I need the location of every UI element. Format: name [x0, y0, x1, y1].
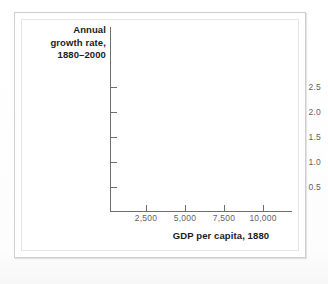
figure-frame-inner [21, 19, 299, 251]
figure-frame [14, 12, 306, 258]
figure-root: 2.5 2.0 1.5 1.0 0.5 2,500 5,000 7,500 10… [0, 0, 328, 284]
